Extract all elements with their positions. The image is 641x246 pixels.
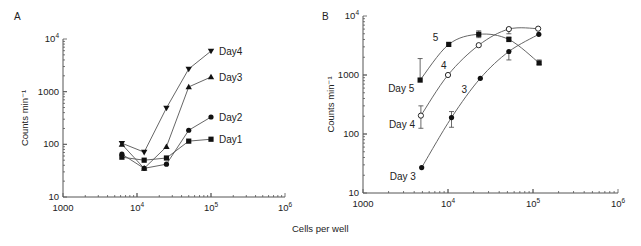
y-tick-label: 10 — [48, 191, 59, 202]
series-line — [122, 77, 211, 168]
marker-square — [186, 139, 191, 144]
series-line — [122, 117, 211, 168]
panel-a: A1000104105106101001000104Counts min⁻¹Da… — [14, 11, 292, 213]
marker-circle — [164, 162, 169, 167]
x-tick-label: 105 — [526, 197, 541, 209]
marker-circle — [536, 32, 541, 37]
marker-triangle-down — [141, 150, 147, 156]
marker-open-circle — [476, 43, 481, 48]
y-axis-title: Counts min⁻¹ — [19, 90, 30, 146]
y-axis-title: Counts min⁻¹ — [325, 76, 336, 132]
marker-triangle-up — [163, 143, 169, 149]
marker-square — [119, 155, 124, 160]
marker-triangle-up — [186, 84, 192, 90]
figure: A1000104105106101001000104Counts min⁻¹Da… — [0, 0, 641, 246]
marker-circle — [506, 49, 511, 54]
x-tick-label: 104 — [441, 197, 456, 209]
marker-square — [208, 137, 213, 142]
marker-square — [506, 37, 511, 42]
y-tick-label: 1000 — [38, 86, 59, 97]
marker-circle — [142, 166, 147, 171]
marker-square — [142, 158, 147, 163]
y-tick-label: 100 — [343, 128, 359, 139]
series-label: Day 3 — [390, 171, 417, 182]
series-line — [122, 51, 211, 152]
shared-xlabel: Cells per well — [292, 223, 349, 234]
x-tick-label: 104 — [130, 201, 145, 213]
panel-b: B1000104105106101001000104Counts min⁻¹Da… — [322, 9, 625, 209]
marker-square — [164, 155, 169, 160]
series-day3: Day 33 — [390, 32, 542, 182]
marker-open-circle — [536, 26, 541, 31]
panel-label: B — [322, 11, 329, 22]
marker-circle — [449, 115, 454, 120]
marker-square — [476, 32, 481, 37]
marker-circle — [478, 76, 483, 81]
x-tick-label: 1000 — [352, 198, 373, 209]
series-label: Day2 — [219, 112, 243, 123]
series-label: Day1 — [219, 134, 243, 145]
y-tick-label: 100 — [43, 138, 59, 149]
marker-circle — [419, 165, 424, 170]
marker-circle — [208, 114, 213, 119]
y-tick-label: 104 — [345, 9, 360, 21]
panel-label: A — [14, 11, 21, 22]
x-tick-label: 105 — [204, 201, 219, 213]
marker-open-circle — [506, 26, 511, 31]
x-tick-label: 106 — [611, 197, 626, 209]
marker-square — [418, 77, 423, 82]
marker-circle — [186, 128, 191, 133]
y-tick-label: 1000 — [338, 69, 359, 80]
marker-open-circle — [418, 113, 423, 118]
marker-square — [446, 42, 451, 47]
series-day4: Day 44 — [389, 26, 541, 130]
series-label: Day 4 — [389, 119, 416, 130]
marker-square — [537, 60, 542, 65]
y-tick-label: 10 — [348, 187, 359, 198]
marker-triangle-down — [208, 49, 214, 55]
series-label: Day3 — [219, 72, 243, 83]
series-label: Day4 — [219, 46, 243, 57]
marker-triangle-up — [208, 74, 214, 80]
y-tick-label: 104 — [45, 32, 60, 44]
curve-label: 3 — [462, 84, 468, 95]
marker-triangle-down — [163, 106, 169, 112]
x-tick-label: 1000 — [52, 202, 73, 213]
series-label: Day 5 — [388, 83, 415, 94]
marker-triangle-down — [186, 67, 192, 73]
marker-open-circle — [445, 72, 450, 77]
curve-label: 5 — [433, 32, 439, 43]
curve-label: 4 — [441, 60, 447, 71]
series-curve — [421, 28, 538, 116]
x-tick-label: 106 — [278, 201, 293, 213]
series-day1: Day1 — [119, 134, 242, 163]
